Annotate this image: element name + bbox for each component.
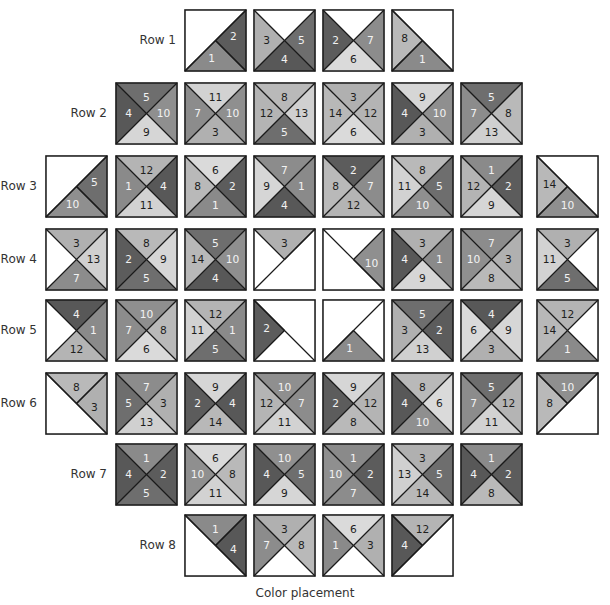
quilt-block: 10 bbox=[322, 228, 385, 291]
color-number: 12 bbox=[260, 107, 274, 120]
color-number: 9 bbox=[281, 487, 288, 500]
color-number: 4 bbox=[401, 397, 408, 410]
color-number: 9 bbox=[488, 199, 495, 212]
color-number: 6 bbox=[470, 324, 477, 337]
quilt-block: 631 bbox=[322, 514, 385, 577]
quilt-block: 12710 bbox=[322, 443, 385, 506]
color-number: 5 bbox=[419, 308, 426, 321]
quilt-block: 27128 bbox=[322, 155, 385, 218]
color-number: 1 bbox=[143, 452, 150, 465]
color-number: 14 bbox=[416, 487, 430, 500]
diagram-caption: Color placement bbox=[0, 586, 610, 600]
color-number: 6 bbox=[212, 164, 219, 177]
color-number: 3 bbox=[91, 401, 98, 414]
color-number: 2 bbox=[125, 253, 132, 266]
quilt-block: 51094 bbox=[115, 82, 178, 145]
color-number: 8 bbox=[488, 487, 495, 500]
color-number: 12 bbox=[467, 180, 481, 193]
color-number: 5 bbox=[564, 272, 571, 285]
color-number: 10 bbox=[278, 452, 292, 465]
color-number: 2 bbox=[229, 180, 236, 193]
color-number: 1 bbox=[298, 180, 305, 193]
color-number: 8 bbox=[229, 468, 236, 481]
color-number: 11 bbox=[485, 416, 499, 429]
color-number: 9 bbox=[350, 381, 357, 394]
color-number: 10 bbox=[191, 468, 205, 481]
quilt-block: 4936 bbox=[460, 299, 523, 362]
color-number: 8 bbox=[488, 272, 495, 285]
row-label: Row 6 bbox=[0, 396, 37, 410]
row-label: Row 4 bbox=[0, 252, 37, 266]
color-number: 3 bbox=[419, 237, 426, 250]
color-number: 2 bbox=[230, 31, 237, 44]
color-number: 12 bbox=[209, 308, 223, 321]
color-number: 12 bbox=[561, 308, 575, 321]
color-number: 13 bbox=[398, 468, 412, 481]
color-number: 3 bbox=[419, 452, 426, 465]
quilt-block: 14 bbox=[184, 514, 247, 577]
color-number: 1 bbox=[208, 52, 215, 65]
color-number: 12 bbox=[364, 107, 378, 120]
color-number: 14 bbox=[209, 416, 223, 429]
quilt-block: 10594 bbox=[253, 443, 316, 506]
quilt-block: 18 bbox=[391, 9, 454, 72]
color-number: 13 bbox=[416, 343, 430, 356]
quilt-block: 83 bbox=[45, 372, 108, 435]
quilt-block: 851011 bbox=[391, 155, 454, 218]
color-number: 10 bbox=[433, 107, 447, 120]
color-number: 10 bbox=[140, 308, 154, 321]
quilt-block: 121511 bbox=[184, 299, 247, 362]
color-number: 5 bbox=[125, 397, 132, 410]
color-number: 6 bbox=[350, 523, 357, 536]
color-number: 3 bbox=[419, 126, 426, 139]
color-number: 13 bbox=[140, 416, 154, 429]
color-number: 12 bbox=[416, 523, 430, 536]
color-number: 7 bbox=[298, 397, 305, 410]
color-number: 4 bbox=[73, 308, 80, 321]
color-number: 8 bbox=[419, 164, 426, 177]
row-label: Row 8 bbox=[116, 538, 176, 552]
color-number: 3 bbox=[281, 237, 288, 250]
color-number: 10 bbox=[416, 416, 430, 429]
color-number: 8 bbox=[281, 91, 288, 104]
color-number: 10 bbox=[329, 468, 343, 481]
color-number: 8 bbox=[194, 180, 201, 193]
color-number: 3 bbox=[488, 343, 495, 356]
color-number: 1 bbox=[419, 53, 426, 66]
color-number: 14 bbox=[329, 107, 343, 120]
color-number: 9 bbox=[143, 126, 150, 139]
quilt-block: 3511 bbox=[536, 228, 599, 291]
color-number: 7 bbox=[73, 272, 80, 285]
quilt-block: 12114 bbox=[536, 299, 599, 362]
color-number: 4 bbox=[229, 397, 236, 410]
color-number: 4 bbox=[125, 107, 132, 120]
color-number: 11 bbox=[209, 91, 223, 104]
color-number: 2 bbox=[505, 180, 512, 193]
color-number: 4 bbox=[281, 53, 288, 66]
color-number: 11 bbox=[209, 487, 223, 500]
color-number: 10 bbox=[226, 107, 240, 120]
color-number: 4 bbox=[125, 468, 132, 481]
color-number: 10 bbox=[467, 253, 481, 266]
color-number: 2 bbox=[194, 397, 201, 410]
color-number: 4 bbox=[230, 543, 237, 556]
color-number: 3 bbox=[505, 253, 512, 266]
color-number: 11 bbox=[543, 253, 557, 266]
color-number: 1 bbox=[229, 324, 236, 337]
color-number: 9 bbox=[263, 180, 270, 193]
color-number: 10 bbox=[416, 199, 430, 212]
color-number: 8 bbox=[401, 32, 408, 45]
color-number: 6 bbox=[350, 126, 357, 139]
color-number: 4 bbox=[212, 272, 219, 285]
quilt-block: 3 bbox=[253, 228, 316, 291]
color-number: 8 bbox=[332, 180, 339, 193]
quilt-block: 4112 bbox=[45, 299, 108, 362]
color-number: 14 bbox=[191, 253, 205, 266]
color-number: 9 bbox=[505, 324, 512, 337]
color-number: 4 bbox=[281, 199, 288, 212]
color-number: 11 bbox=[398, 180, 412, 193]
color-number: 12 bbox=[140, 164, 154, 177]
color-number: 7 bbox=[350, 487, 357, 500]
row-label: Row 3 bbox=[0, 179, 37, 193]
color-number: 2 bbox=[332, 397, 339, 410]
